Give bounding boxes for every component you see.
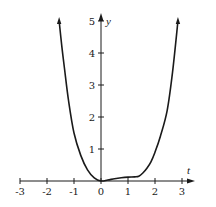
y-tick-label: 5 — [89, 16, 95, 27]
x-tick-label: 3 — [179, 186, 185, 197]
x-axis-arrow-icon — [187, 179, 195, 184]
y-axis-label: y — [105, 15, 111, 27]
x-tick-label: 2 — [152, 186, 158, 197]
curve-left-arrow-icon — [57, 17, 61, 24]
series-curve — [57, 17, 180, 181]
y-tick-label: 1 — [89, 144, 95, 155]
curve-right-arrow-icon — [176, 17, 180, 24]
y-tick-label: 4 — [89, 48, 95, 59]
x-axis-label: t — [187, 164, 191, 176]
line-chart: -3-2-10123 12345 t y — [0, 0, 216, 207]
x-tick-label: -1 — [69, 186, 79, 197]
y-tick-label: 2 — [89, 112, 95, 123]
x-tick-label: -3 — [15, 186, 25, 197]
y-axis-arrow-icon — [99, 13, 104, 21]
y-axis: 12345 — [89, 13, 104, 181]
x-tick-label: -2 — [42, 186, 52, 197]
curve-path — [59, 21, 178, 181]
y-tick-label: 3 — [89, 80, 95, 91]
x-tick-label: 0 — [98, 186, 104, 197]
x-tick-label: 1 — [125, 186, 131, 197]
